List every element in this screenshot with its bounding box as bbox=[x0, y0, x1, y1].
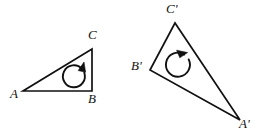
figure-canvas bbox=[0, 0, 259, 137]
rotation-arrow-abc bbox=[63, 62, 86, 87]
vertex-label-c-prime: C' bbox=[166, 2, 177, 15]
triangle-a-prime-b-prime-c-prime-outline bbox=[150, 23, 240, 120]
geometry-figure: A B C A' B' C' bbox=[0, 0, 259, 137]
vertex-label-b-prime: B' bbox=[131, 59, 142, 72]
rotation-arrow-a-prime-b-prime-c-prime bbox=[166, 50, 190, 76]
vertex-label-c: C bbox=[88, 28, 97, 41]
vertex-label-a: A bbox=[10, 87, 18, 100]
triangle-a-prime-b-prime-c-prime-group bbox=[150, 23, 240, 120]
vertex-label-b: B bbox=[88, 92, 96, 105]
rotation-arrow-a-prime-b-prime-c-prime-head bbox=[177, 50, 188, 58]
triangle-abc-group bbox=[23, 49, 92, 91]
vertex-label-a-prime: A' bbox=[239, 117, 250, 130]
rotation-arrow-a-prime-b-prime-c-prime-arc bbox=[166, 53, 190, 77]
